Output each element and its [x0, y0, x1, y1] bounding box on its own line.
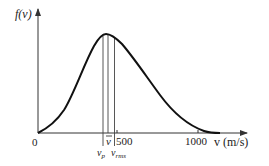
origin-label: 0 [32, 136, 38, 148]
distribution-curve [38, 34, 220, 133]
x-tick-label-500: 500 [116, 135, 133, 147]
vp-label: vp [97, 147, 105, 160]
maxwell-distribution-chart: f(v) 0 500 1000 v (m/s) v vp vrms [0, 0, 269, 166]
y-axis-label: f(v) [15, 7, 32, 21]
x-axis-label: v (m/s) [214, 135, 248, 149]
vrms-label: vrms [111, 147, 126, 160]
x-tick-label-1000: 1000 [185, 135, 208, 147]
vmean-label: v [106, 135, 111, 147]
